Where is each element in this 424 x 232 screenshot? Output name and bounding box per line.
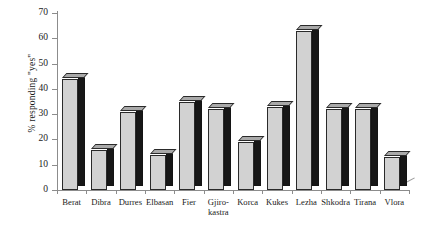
plot-area (57, 8, 409, 193)
bar-top-face (326, 103, 353, 108)
bar-top-face (62, 73, 89, 78)
bar-top-face (296, 25, 323, 30)
bar-side-face (195, 98, 202, 187)
x-tick (292, 190, 293, 194)
bar (179, 96, 195, 191)
y-tick-label: 40 (16, 84, 48, 94)
bar (384, 151, 400, 190)
x-tick (86, 190, 87, 194)
x-tick-label: Vlora (368, 197, 420, 207)
bar-front-face (326, 109, 342, 190)
bar-front-face (179, 102, 195, 191)
bar-front-face (238, 142, 254, 190)
bar (150, 149, 166, 190)
bar (326, 103, 342, 190)
bar-side-face (312, 27, 319, 186)
bar (355, 103, 371, 190)
bar-top-face (355, 103, 382, 108)
bar-side-face (342, 105, 349, 186)
bar-front-face (150, 155, 166, 190)
x-tick (350, 190, 351, 194)
y-tick-label: 20 (16, 134, 48, 144)
bar-top-face (267, 101, 294, 106)
bar (120, 106, 136, 190)
bar-side-face (371, 105, 378, 186)
bar-side-face (166, 151, 173, 186)
bar (91, 144, 107, 190)
x-tick (145, 190, 146, 194)
x-tick (116, 190, 117, 194)
bar-side-face (283, 103, 290, 186)
x-tick (321, 190, 322, 194)
bar-top-face (179, 96, 206, 101)
x-tick (262, 190, 263, 194)
bar (208, 103, 224, 190)
bar-side-face (136, 108, 143, 186)
bar (238, 136, 254, 190)
x-tick (204, 190, 205, 194)
bar (62, 73, 78, 190)
bar-top-face (238, 136, 265, 141)
bar-side-face (107, 146, 114, 186)
bar-front-face (267, 107, 283, 190)
bar-chart: % responding "yes" 010203040506070 Berat… (0, 0, 424, 232)
bar-side-face (224, 105, 231, 186)
x-tick (233, 190, 234, 194)
bar-front-face (120, 112, 136, 190)
bar-front-face (208, 109, 224, 190)
bar-front-face (384, 157, 400, 190)
bar-side-face (254, 138, 261, 186)
bar-side-face (400, 153, 407, 186)
bar-front-face (62, 79, 78, 190)
bar-front-face (91, 150, 107, 190)
y-tick-label: 10 (16, 160, 48, 170)
y-tick-label: 60 (16, 33, 48, 43)
x-tick (174, 190, 175, 194)
bar (267, 101, 283, 190)
x-tick (380, 190, 381, 194)
bar-top-face (150, 149, 177, 154)
y-tick-label: 50 (16, 59, 48, 69)
x-tick (57, 190, 58, 194)
bar-front-face (355, 109, 371, 190)
bar (296, 25, 312, 190)
bar-top-face (91, 144, 118, 149)
bar-front-face (296, 31, 312, 190)
y-tick-label: 30 (16, 109, 48, 119)
bar-side-face (78, 75, 85, 186)
bar-top-face (120, 106, 147, 111)
y-tick-label: 0 (16, 185, 48, 195)
y-tick-label: 70 (16, 8, 48, 18)
x-tick (409, 190, 410, 194)
